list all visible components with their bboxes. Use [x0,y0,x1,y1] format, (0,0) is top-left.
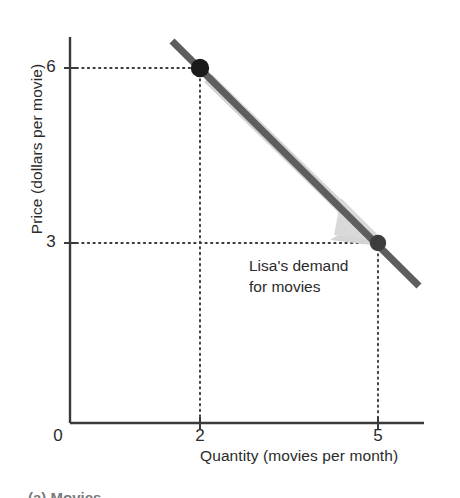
cropped-figure-caption: (a) Movies [28,489,148,498]
demand-curve-annotation: Lisa's demand for movies [249,255,379,297]
annotation-line-1: Lisa's demand [249,255,379,276]
plot-area [0,0,460,498]
x-tick-label-5: 5 [365,426,391,446]
data-point-marker-b [370,235,386,251]
x-axis-title: Quantity (movies per month) [200,447,398,465]
data-point-marker-a [191,59,209,77]
demand-curve-figure: Price (dollars per movie) Quantity (movi… [0,0,460,498]
x-tick-label-2: 2 [187,426,213,446]
y-tick-label-6: 6 [38,57,64,77]
y-tick-label-3: 3 [38,232,64,252]
x-tick-label-0: 0 [45,426,71,446]
annotation-line-2: for movies [249,276,379,297]
y-axis-title: Price (dollars per movie) [28,49,46,249]
